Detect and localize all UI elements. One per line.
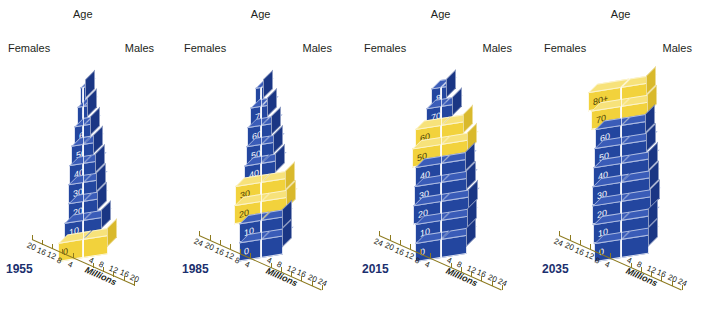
axis-tick xyxy=(610,253,611,258)
pyramid-panel-1955: AgeFemalesMales195501020304050607080+201… xyxy=(0,0,176,310)
axis-tick xyxy=(52,244,53,249)
source-credit: Compiled by the authors using data from … xyxy=(703,0,722,8)
axis-tick xyxy=(301,276,302,281)
axis-tick xyxy=(379,231,380,236)
axis-tick xyxy=(492,281,493,286)
axis-rule xyxy=(32,239,134,285)
axis-tick xyxy=(199,231,200,236)
axis-tick xyxy=(559,231,560,236)
axis-tick xyxy=(502,285,503,290)
axis-tick xyxy=(240,249,241,254)
axis-tick xyxy=(390,235,391,240)
axis-tick xyxy=(62,249,63,254)
axis-tick-label-females-8: 8 xyxy=(414,255,422,265)
axis-tick-label-females-8: 8 xyxy=(56,255,64,265)
pyramid-panel-2015: AgeFemalesMales201501020304050607080+242… xyxy=(356,0,536,310)
axis-tick xyxy=(124,276,125,281)
pyramid-panel-2035: AgeFemalesMales203501020304050607080+242… xyxy=(536,0,716,310)
axis-tick xyxy=(661,276,662,281)
axis-tick xyxy=(400,240,401,245)
axis-tick xyxy=(570,235,571,240)
axis-tick xyxy=(410,244,411,249)
pyramid-panel-1985: AgeFemalesMales198501020304050607080+242… xyxy=(176,0,356,310)
millions-axis: 24201612844812162024Millions xyxy=(356,0,536,310)
axis-tick xyxy=(32,235,33,240)
axis-tick xyxy=(42,240,43,245)
axis-tick xyxy=(590,244,591,249)
axis-tick-label-females-20: 20 xyxy=(25,241,37,253)
axis-tick xyxy=(250,253,251,258)
axis-tick-label-females-4: 4 xyxy=(244,260,252,270)
millions-axis: 2016128448121620Millions xyxy=(0,0,176,310)
axis-tick-label-females-4: 4 xyxy=(604,260,612,270)
axis-tick-label-females-4: 4 xyxy=(424,260,432,270)
axis-tick xyxy=(580,240,581,245)
axis-tick xyxy=(481,276,482,281)
axis-tick xyxy=(230,244,231,249)
axis-tick-label-females-20: 20 xyxy=(383,241,395,253)
axis-tick xyxy=(672,281,673,286)
axis-tick xyxy=(600,249,601,254)
axis-tick xyxy=(420,249,421,254)
population-pyramid-figure: AgeFemalesMales195501020304050607080+201… xyxy=(0,0,724,310)
axis-tick-label-females-8: 8 xyxy=(234,255,242,265)
axis-tick xyxy=(220,240,221,245)
axis-rule xyxy=(379,235,502,290)
axis-tick-label-females-20: 20 xyxy=(203,241,215,253)
millions-axis: 24201612844812162024Millions xyxy=(536,0,716,310)
axis-tick xyxy=(210,235,211,240)
millions-axis: 24201612844812162024Millions xyxy=(176,0,356,310)
axis-rule xyxy=(199,235,322,290)
axis-tick-label-females-8: 8 xyxy=(594,255,602,265)
axis-tick-label-females-4: 4 xyxy=(66,260,74,270)
axis-tick xyxy=(73,253,74,258)
axis-rule xyxy=(559,235,682,290)
axis-tick xyxy=(682,285,683,290)
axis-tick xyxy=(430,253,431,258)
axis-tick xyxy=(134,281,135,286)
axis-tick-label-females-20: 20 xyxy=(563,241,575,253)
axis-tick xyxy=(322,285,323,290)
axis-tick xyxy=(312,281,313,286)
